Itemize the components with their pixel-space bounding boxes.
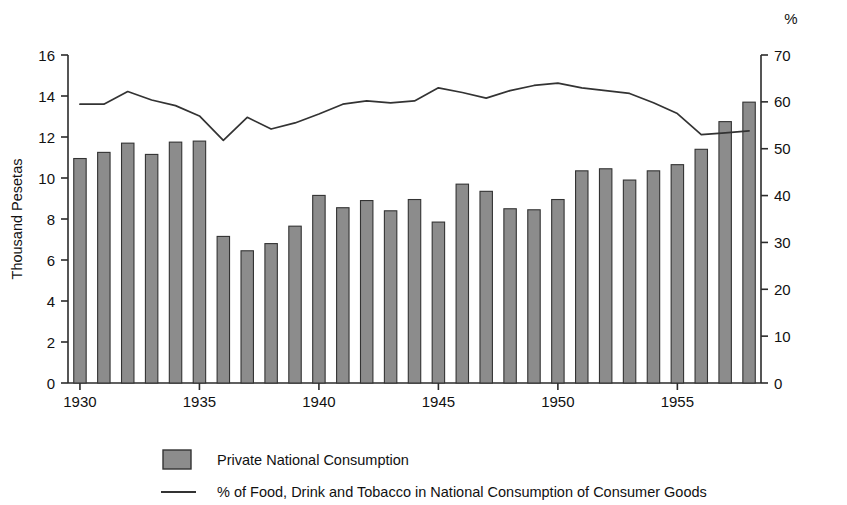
left-axis-tick-label: 8: [47, 211, 55, 228]
bar: [169, 142, 181, 383]
right-axis-tick-label: 20: [774, 281, 791, 298]
x-axis-tick-label: 1945: [422, 393, 455, 410]
bar: [576, 171, 588, 383]
left-axis-tick-label: 0: [47, 375, 55, 392]
bar: [432, 222, 444, 383]
left-axis-tick-label: 16: [38, 47, 55, 64]
bar: [695, 149, 707, 383]
bar: [122, 143, 134, 383]
right-axis-title: %: [784, 10, 797, 27]
bar: [456, 184, 468, 383]
left-axis-tick-label: 12: [38, 129, 55, 146]
bar: [265, 244, 277, 383]
bar: [504, 209, 516, 383]
right-axis-tick-label: 0: [774, 375, 782, 392]
x-axis-tick-label: 1940: [302, 393, 335, 410]
bar: [743, 102, 755, 383]
left-axis-tick-label: 10: [38, 170, 55, 187]
right-axis-tick-label: 10: [774, 328, 791, 345]
bar: [313, 195, 325, 383]
bar: [408, 200, 420, 383]
bar: [552, 200, 564, 383]
right-axis-tick-label: 60: [774, 93, 791, 110]
left-axis-tick-label: 14: [38, 88, 55, 105]
bar: [360, 201, 372, 383]
legend-label-line: % of Food, Drink and Tobacco in National…: [217, 484, 707, 500]
left-axis-tick-label: 4: [47, 293, 55, 310]
x-axis-tick-label: 1930: [63, 393, 96, 410]
bar: [337, 208, 349, 383]
consumption-chart: 0246810121416010203040506070193019351940…: [0, 0, 847, 505]
left-axis-tick-label: 2: [47, 334, 55, 351]
left-axis-tick-label: 6: [47, 252, 55, 269]
bar: [74, 159, 86, 383]
x-axis-tick-label: 1950: [541, 393, 574, 410]
bar: [480, 191, 492, 383]
right-axis-tick-label: 30: [774, 234, 791, 251]
right-axis-tick-label: 70: [774, 47, 791, 64]
right-axis-tick-label: 50: [774, 140, 791, 157]
legend-label-bar: Private National Consumption: [217, 452, 409, 468]
x-axis-tick-label: 1935: [183, 393, 216, 410]
bar: [384, 211, 396, 383]
bar: [241, 251, 253, 383]
bar: [719, 122, 731, 383]
left-axis-title: Thousand Pesetas: [9, 159, 25, 280]
bar: [623, 180, 635, 383]
right-axis-tick-label: 40: [774, 187, 791, 204]
bar: [647, 171, 659, 383]
x-axis-tick-label: 1955: [661, 393, 694, 410]
bar: [528, 210, 540, 383]
bar: [193, 141, 205, 383]
bar: [217, 236, 229, 383]
bar: [599, 169, 611, 383]
bar: [145, 154, 157, 383]
bar: [98, 152, 110, 383]
legend-swatch-bar: [163, 450, 191, 469]
bar: [671, 165, 683, 383]
bar: [289, 226, 301, 383]
